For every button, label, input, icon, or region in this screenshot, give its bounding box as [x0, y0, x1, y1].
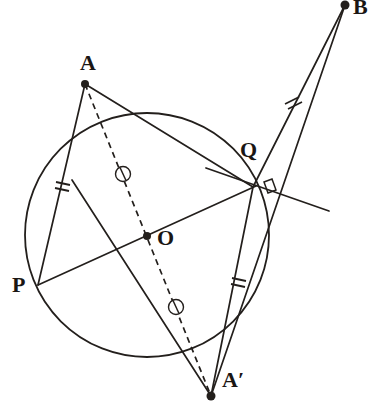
- segment-AQ: [85, 84, 253, 187]
- point-label-A-prime: A′: [222, 369, 244, 391]
- segment-PAp: [72, 180, 211, 396]
- segment-QB: [253, 5, 345, 187]
- point-dot-A: [81, 80, 89, 88]
- point-label-O: O: [157, 227, 174, 249]
- point-label-P: P: [12, 274, 25, 296]
- geometry-figure: A B P Q O A′: [0, 0, 376, 412]
- segment-ApB: [211, 5, 345, 396]
- point-label-B: B: [353, 0, 368, 18]
- segment-AP: [38, 84, 85, 285]
- point-dot-B: [341, 1, 350, 10]
- point-dot-O: [143, 232, 151, 240]
- tick-double-AP: [55, 182, 70, 191]
- congruence-circle-marker-lower: [169, 300, 184, 315]
- tick-double-QB: [285, 97, 302, 109]
- point-label-A: A: [80, 52, 96, 74]
- geometry-canvas: [0, 0, 376, 412]
- point-label-Q: Q: [240, 139, 257, 161]
- congruence-circle-marker-upper: [116, 167, 131, 182]
- point-dot-Ap: [207, 392, 216, 401]
